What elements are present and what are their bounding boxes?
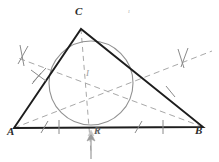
vertex-label-b: B [195,125,202,136]
double-tick-upper-right-b [181,48,188,67]
vertex-label-c: C [75,6,82,17]
touch-point-label-r: R [94,126,101,136]
double-tick-upper-left-a [20,45,24,66]
bisector-tick-marks [18,45,188,82]
figure-canvas [0,0,219,162]
double-tick-upper-right-a [178,49,184,68]
incircle [49,41,133,125]
tick-lower-left-bisector-b [31,70,46,81]
stray-pencil-mark: ı [128,8,130,15]
side-tick-marks [32,73,175,134]
tick-side-bc [166,86,175,97]
vertex-label-a: A [7,126,14,137]
geometry-figure: A B C I R ı [0,0,219,162]
incenter-label-i: I [86,69,89,78]
